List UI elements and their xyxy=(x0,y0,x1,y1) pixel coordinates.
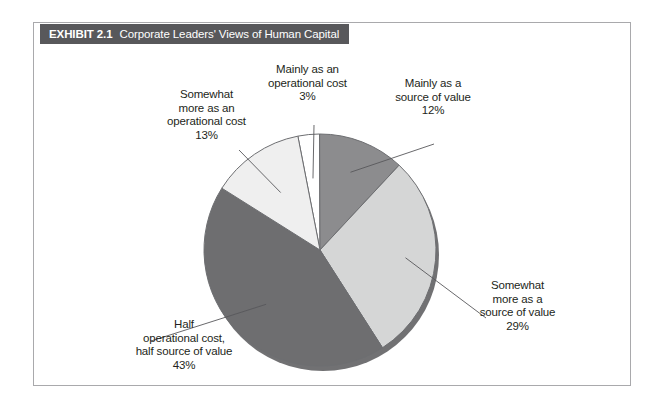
callout-somewhat-source-of-value: Somewhat more as a source of value 29% xyxy=(455,279,580,333)
callout-mainly-source-of-value: Mainly as a source of value 12% xyxy=(373,77,493,118)
callout-line: source of value xyxy=(373,91,493,105)
callout-value: 12% xyxy=(373,104,493,118)
callout-line: operational cost, xyxy=(110,332,258,346)
callout-somewhat-operational-cost: Somewhat more as an operational cost 13% xyxy=(140,88,273,142)
exhibit-caption: Corporate Leaders' Views of Human Capita… xyxy=(119,28,339,40)
exhibit-title-bar: EXHIBIT 2.1 Corporate Leaders' Views of … xyxy=(40,24,349,44)
callout-line: Somewhat xyxy=(140,88,273,102)
callout-line: source of value xyxy=(455,306,580,320)
callout-line: Mainly as a xyxy=(373,77,493,91)
callout-line: Somewhat xyxy=(455,279,580,293)
callout-line: Half xyxy=(110,318,258,332)
callout-value: 43% xyxy=(110,359,258,373)
callout-half-half: Half operational cost, half source of va… xyxy=(110,318,258,372)
callout-line: half source of value xyxy=(110,345,258,359)
callout-value: 13% xyxy=(140,129,273,143)
callout-line: operational cost xyxy=(140,115,273,129)
callout-line: more as a xyxy=(455,293,580,307)
callout-line: more as an xyxy=(140,102,273,116)
exhibit-number: EXHIBIT 2.1 xyxy=(49,28,112,40)
callout-value: 29% xyxy=(455,320,580,334)
callout-line: Mainly as an xyxy=(245,63,370,77)
